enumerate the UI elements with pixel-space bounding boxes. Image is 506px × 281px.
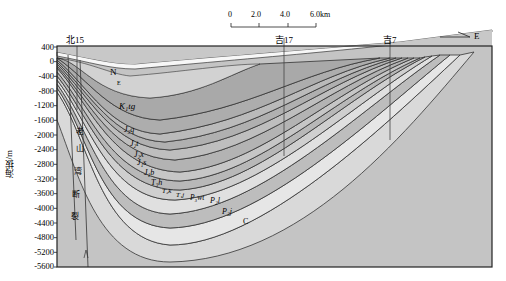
direction-label: E xyxy=(474,31,480,41)
strata-label-J1b: J₁b xyxy=(144,168,154,177)
strata-label-P2l: P₂l xyxy=(210,196,220,205)
strata-label-N: N xyxy=(110,67,117,77)
strata-label-E: E xyxy=(117,80,121,86)
y-tick: -4000 xyxy=(34,203,54,213)
strata-label-J1s: J₁s xyxy=(137,158,146,167)
strata-label-T1j: T₁j xyxy=(176,191,184,199)
strata-label-C: C xyxy=(243,217,248,226)
y-tick: -2800 xyxy=(34,159,54,169)
well-label-ji17: 吉17 xyxy=(275,33,293,46)
y-tick: -5600 xyxy=(34,261,54,271)
fault-char: 裂 xyxy=(71,210,79,221)
y-tick: 0 xyxy=(50,56,54,66)
y-tick: 400 xyxy=(41,42,54,52)
y-tick: -2000 xyxy=(34,130,54,140)
y-tick: -1200 xyxy=(34,100,54,110)
y-tick: -5200 xyxy=(34,247,54,257)
y-tick: -2400 xyxy=(34,144,54,154)
well-label-bei15: 北15 xyxy=(66,33,84,46)
scale-label-2: 2.0 xyxy=(251,10,261,19)
y-tick: -400 xyxy=(38,71,54,81)
y-tick: -4400 xyxy=(34,218,54,228)
well-label-ji7: 吉7 xyxy=(383,33,397,46)
scale-label-0: 0 xyxy=(228,10,232,19)
fault-char: 老 xyxy=(76,125,84,136)
y-tick: -800 xyxy=(38,86,54,96)
y-tick: -4800 xyxy=(34,232,54,242)
strata-label-T3h: T₃h xyxy=(151,178,162,187)
strata-label-J3q: J₃q xyxy=(124,125,134,134)
strata-label-P3wt: P₃wt xyxy=(190,193,204,202)
fault-char: 断 xyxy=(72,188,80,199)
scale-label-4: 4.0 xyxy=(280,10,290,19)
fault-char: 山 xyxy=(76,142,84,153)
strata-label-P2j: P₂j xyxy=(222,207,232,216)
y-tick: -3600 xyxy=(34,188,54,198)
y-tick: -1600 xyxy=(34,115,54,125)
strata-label-K1tg: K₁tg xyxy=(119,101,135,111)
strata-label-T2k: T₂k xyxy=(162,187,171,195)
y-tick: -3200 xyxy=(34,174,54,184)
labels-layer: 0 2.0 4.0 6.0km E 北15 吉17 吉7 海拔/m 400 0 … xyxy=(0,0,506,281)
scale-label-6: 6.0km xyxy=(310,10,330,19)
y-axis-title: 海拔/m xyxy=(2,150,15,178)
strata-label-J2t: J₂t xyxy=(130,139,139,148)
fault-char: 湾 xyxy=(74,165,82,176)
